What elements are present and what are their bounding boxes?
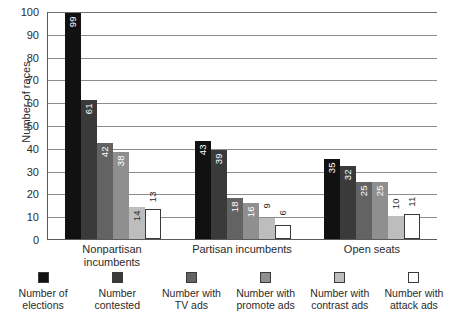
bar-value-label: 18 <box>230 201 240 212</box>
legend-item[interactable]: Number with promote ads <box>229 272 303 311</box>
bar-value-label: 61 <box>84 103 94 114</box>
bar[interactable]: 25 <box>356 182 372 239</box>
legend-swatch <box>408 272 419 283</box>
bar[interactable]: 13 <box>145 209 161 239</box>
legend-swatch <box>38 272 49 283</box>
legend-item[interactable]: Number with attack ads <box>377 272 451 311</box>
bar[interactable]: 18 <box>227 198 243 239</box>
x-axis-label: Nonpartisanincumbents <box>47 243 177 268</box>
legend-item[interactable]: Number of elections <box>6 272 80 311</box>
bar-value-label: 13 <box>148 192 158 203</box>
bar[interactable]: 39 <box>211 150 227 239</box>
bar-value-label: 25 <box>375 185 385 196</box>
legend-item[interactable]: Number with contrast ads <box>303 272 377 311</box>
y-tick-label: 10 <box>27 211 39 223</box>
bar-value-label: 25 <box>359 185 369 196</box>
bar-value-label: 38 <box>116 156 126 167</box>
y-tick-label: 90 <box>27 29 39 41</box>
legend-label: Number with TV ads <box>162 287 221 311</box>
legend-swatch <box>334 272 345 283</box>
legend-item[interactable]: Number contested <box>80 272 154 311</box>
bar[interactable]: 6 <box>275 225 291 239</box>
chart-legend: Number of electionsNumber contestedNumbe… <box>6 272 451 311</box>
plot-area: 9961423814134339181696353225251011 <box>47 12 437 240</box>
bar-value-label: 9 <box>262 204 272 209</box>
bar-value-label: 35 <box>327 163 337 174</box>
bar-value-label: 42 <box>100 147 110 158</box>
x-axis-labels: NonpartisanincumbentsPartisan incumbents… <box>47 243 437 268</box>
y-tick-label: 0 <box>33 234 39 246</box>
legend-swatch <box>112 272 123 283</box>
bar[interactable]: 43 <box>195 141 211 239</box>
legend-swatch <box>260 272 271 283</box>
bar-value-label: 10 <box>391 199 401 210</box>
bar[interactable]: 42 <box>97 143 113 239</box>
bar-group: 4339181696 <box>178 12 308 239</box>
y-tick-label: 20 <box>27 188 39 200</box>
y-tick-label: 80 <box>27 52 39 64</box>
legend-label: Number of elections <box>19 287 68 311</box>
y-tick-label: 70 <box>27 74 39 86</box>
legend-item[interactable]: Number with TV ads <box>154 272 228 311</box>
x-axis-label: Partisan incumbents <box>177 243 307 268</box>
bar-value-label: 43 <box>198 144 208 155</box>
bar-value-label: 39 <box>214 153 224 164</box>
bar-value-label: 16 <box>246 206 256 217</box>
legend-label: Number contested <box>94 287 140 311</box>
bar[interactable]: 61 <box>81 100 97 239</box>
bar[interactable]: 25 <box>372 182 388 239</box>
y-tick-label: 60 <box>27 97 39 109</box>
legend-label: Number with attack ads <box>384 287 443 311</box>
bar-group: 996142381413 <box>48 12 178 239</box>
bar[interactable]: 10 <box>388 216 404 239</box>
bar[interactable]: 35 <box>324 159 340 239</box>
bar[interactable]: 14 <box>129 207 145 239</box>
bar[interactable]: 99 <box>65 13 81 239</box>
bar-value-label: 14 <box>132 210 142 221</box>
bar-value-label: 11 <box>407 197 417 207</box>
bar-value-label: 32 <box>343 169 353 180</box>
chart-container: Number of races 1009080706050403020100 9… <box>0 0 457 319</box>
bar[interactable]: 32 <box>340 166 356 239</box>
bar[interactable]: 9 <box>259 218 275 239</box>
bar-groups: 9961423814134339181696353225251011 <box>48 12 437 239</box>
bar[interactable]: 11 <box>404 214 420 239</box>
y-tick-label: 50 <box>27 120 39 132</box>
bar-group: 353225251011 <box>307 12 437 239</box>
y-tick-label: 30 <box>27 166 39 178</box>
bar-value-label: 6 <box>278 210 288 215</box>
bar-value-label: 99 <box>68 17 78 28</box>
legend-label: Number with contrast ads <box>310 287 369 311</box>
bar[interactable]: 38 <box>113 152 129 239</box>
legend-swatch <box>186 272 197 283</box>
legend-label: Number with promote ads <box>236 287 295 311</box>
y-tick-label: 100 <box>21 6 39 18</box>
y-axis-ticks: 1009080706050403020100 <box>0 12 43 240</box>
y-tick-label: 40 <box>27 143 39 155</box>
x-axis-label: Open seats <box>307 243 437 268</box>
bar[interactable]: 16 <box>243 203 259 239</box>
